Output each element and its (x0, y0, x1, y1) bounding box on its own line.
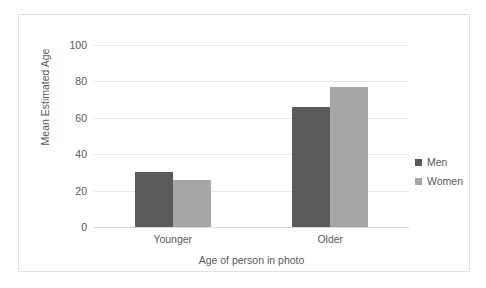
bar-women-older[interactable] (330, 87, 368, 227)
legend-swatch-icon (415, 178, 422, 185)
bar-women-younger[interactable] (173, 180, 211, 227)
y-axis-tick-label: 0 (27, 222, 87, 233)
bar-men-younger[interactable] (135, 172, 173, 227)
plot-area (94, 45, 409, 227)
gridline (94, 227, 409, 228)
y-axis-ticks: 020406080100 (27, 45, 87, 227)
legend-label: Women (427, 176, 463, 187)
y-axis-tick-label: 40 (27, 149, 87, 160)
y-axis-tick-label: 80 (27, 76, 87, 87)
x-axis-title: Age of person in photo (94, 254, 409, 266)
chart-container: Mean Estimated Age 020406080100 YoungerO… (18, 14, 470, 272)
y-axis-tick-label: 60 (27, 113, 87, 124)
x-axis-tick-label-older: Older (250, 233, 410, 245)
y-axis-tick-label: 100 (27, 40, 87, 51)
legend-label: Men (427, 157, 447, 168)
bar-group-younger (135, 45, 211, 227)
x-axis-tick-label-younger: Younger (93, 233, 253, 245)
legend-swatch-icon (415, 159, 422, 166)
bar-men-older[interactable] (292, 107, 330, 227)
legend-item-women[interactable]: Women (415, 172, 485, 191)
y-axis-tick-label: 20 (27, 185, 87, 196)
legend-item-men[interactable]: Men (415, 153, 485, 172)
bar-group-older (292, 45, 368, 227)
chart-legend: MenWomen (415, 153, 485, 191)
